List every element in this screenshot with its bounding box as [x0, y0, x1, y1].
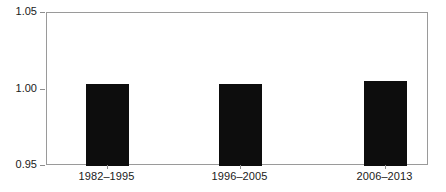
- y-tick-mark: [40, 12, 45, 13]
- y-tick-label: 1.00: [16, 82, 37, 94]
- plot-frame: [46, 12, 428, 165]
- bar-chart: 0.951.001.05 1982–19951996–20052006–2013: [0, 0, 446, 192]
- x-tick-mark: [385, 165, 386, 169]
- plot-area: [47, 13, 427, 164]
- y-tick-label: 1.05: [16, 5, 37, 17]
- y-tick-mark: [40, 165, 45, 166]
- x-tick-label: 1982–1995: [79, 170, 135, 182]
- x-tick-mark: [107, 165, 108, 169]
- y-tick-mark: [40, 89, 45, 90]
- y-tick-label: 0.95: [16, 158, 37, 170]
- bar: [219, 84, 262, 166]
- x-tick-label: 2006–2013: [357, 170, 413, 182]
- x-tick-label: 1996–2005: [212, 170, 268, 182]
- bar: [364, 81, 407, 166]
- x-tick-mark: [240, 165, 241, 169]
- bar: [86, 84, 129, 166]
